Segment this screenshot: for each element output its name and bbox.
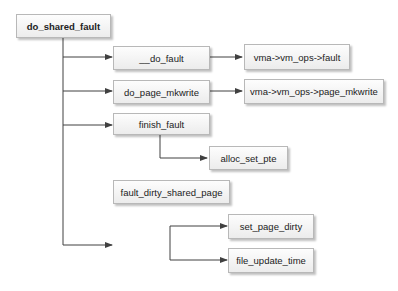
node-vm-ops-fault: vma->vm_ops->fault (244, 44, 350, 70)
node-do-fault: __do_fault (113, 46, 210, 70)
node-vm-ops-page-mkwrite: vma->vm_ops->page_mkwrite (244, 79, 384, 104)
edge-fdsp-file-update-time (170, 256, 227, 260)
node-label: file_update_time (236, 255, 306, 266)
node-do-page-mkwrite: do_page_mkwrite (113, 80, 210, 104)
node-do-shared-fault: do_shared_fault (16, 14, 111, 38)
node-finish-fault: finish_fault (113, 113, 210, 135)
node-label: alloc_set_pte (221, 153, 277, 164)
node-label: do_shared_fault (27, 21, 100, 32)
node-label: set_page_dirty (240, 221, 302, 232)
node-label: vma->vm_ops->fault (254, 52, 341, 63)
node-set-page-dirty: set_page_dirty (228, 214, 314, 239)
node-label: finish_fault (139, 119, 184, 130)
node-file-update-time: file_update_time (228, 248, 314, 273)
node-label: fault_dirty_shared_page (121, 187, 223, 198)
node-label: do_page_mkwrite (124, 87, 199, 98)
node-label: vma->vm_ops->page_mkwrite (250, 86, 378, 97)
edge-root-trunk (63, 38, 112, 245)
node-alloc-set-pte: alloc_set_pte (209, 146, 288, 170)
node-label: __do_fault (139, 53, 183, 64)
edge-fdsp-set-page-dirty (170, 226, 227, 256)
edge-finish-fault-alloc-set-pte (160, 135, 207, 158)
node-fault-dirty-shared-page: fault_dirty_shared_page (113, 180, 230, 204)
